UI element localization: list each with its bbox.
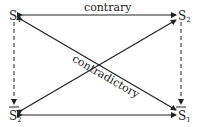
node-top-right: S2 [178, 10, 191, 26]
label-contrary: contrary [84, 2, 132, 14]
node-bottom-left: S2 [9, 110, 22, 126]
node-top-left: S1 [9, 10, 22, 26]
diagram-canvas [0, 0, 197, 127]
node-letter: S [178, 109, 186, 123]
node-subscript: 1 [17, 16, 21, 24]
node-letter: S [9, 109, 17, 123]
node-subscript: 2 [17, 116, 21, 124]
node-letter: S [178, 9, 186, 23]
node-subscript: 1 [186, 116, 190, 124]
node-letter: S [9, 9, 17, 23]
node-bottom-right: S1 [178, 110, 191, 126]
node-subscript: 2 [186, 16, 190, 24]
